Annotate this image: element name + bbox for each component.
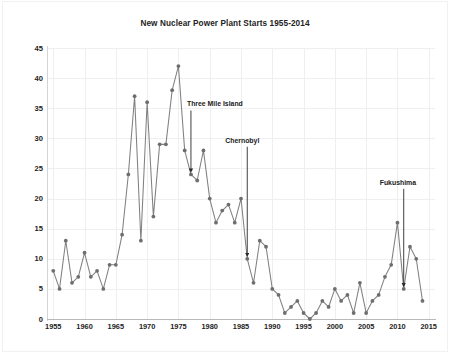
annotation-label: Chernobyl (225, 137, 259, 144)
chart-figure: New Nuclear Power Plant Starts 1955-2014… (0, 0, 450, 354)
annotation-label: Three Mile Island (187, 100, 243, 107)
annotation-label: Fukushima (380, 179, 416, 186)
annotation-arrows (0, 0, 450, 354)
